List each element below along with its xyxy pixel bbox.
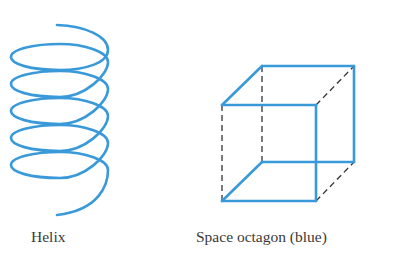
cube-label: Space octagon (blue) xyxy=(196,228,327,246)
helix-label: Helix xyxy=(31,228,65,246)
cube-figure xyxy=(222,66,354,201)
figure-canvas xyxy=(0,0,401,263)
helix-figure xyxy=(11,25,108,215)
hidden-edge-top-right xyxy=(316,66,354,105)
hidden-edge-bottom-right xyxy=(316,162,354,201)
